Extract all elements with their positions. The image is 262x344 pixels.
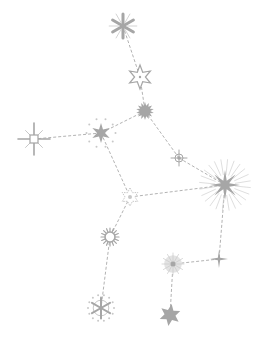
star-crosshair-icon xyxy=(171,150,187,166)
star-filled-star-6-icon xyxy=(160,304,180,326)
star-asterisk-dotted-circle-icon xyxy=(87,294,115,321)
star-outline-star-6-icon xyxy=(130,65,151,89)
constellation-canvas xyxy=(0,0,262,344)
constellation-line xyxy=(123,26,140,77)
star-glow-icon xyxy=(162,253,184,275)
constellation-lines xyxy=(34,26,225,315)
star-faint-star-icon xyxy=(122,188,138,206)
constellation-line xyxy=(34,133,101,139)
constellation-line xyxy=(101,133,130,197)
star-sun-ring-icon xyxy=(101,228,119,246)
star-asterisk-6-icon xyxy=(109,14,137,38)
constellation-line xyxy=(179,158,225,185)
star-sparkle-8-hollow-icon xyxy=(18,123,50,155)
constellation-svg xyxy=(0,0,262,344)
star-burst-8-rays-icon xyxy=(200,160,251,211)
star-sparkle-4-icon xyxy=(210,250,228,268)
constellation-line xyxy=(130,185,225,197)
star-sunburst-icon xyxy=(136,102,154,120)
constellation-line xyxy=(145,111,179,158)
star-star-6-dotted-icon xyxy=(86,118,117,148)
